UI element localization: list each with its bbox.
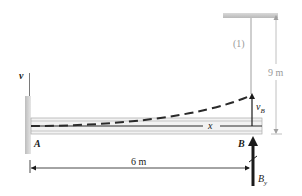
deflection-vb-label: vB xyxy=(256,101,265,115)
fixed-wall-a xyxy=(25,96,31,154)
point-a-label: A xyxy=(33,138,41,149)
beam-length-label: 6 m xyxy=(131,156,147,167)
deflection-vb-arrowhead xyxy=(249,93,255,99)
beam-dimension-arrow-right xyxy=(245,166,250,171)
beam-diagram: (1) 9 m v x vB A B By 6 m xyxy=(0,0,302,196)
member-label: (1) xyxy=(233,38,245,50)
reaction-by-label: By xyxy=(258,173,268,187)
dim-arrow-bottom xyxy=(274,129,279,134)
reaction-by-arrowhead xyxy=(248,136,258,146)
point-b-label: B xyxy=(237,138,245,149)
x-axis-label: x xyxy=(207,120,213,131)
v-axis-label: v xyxy=(19,70,24,81)
ceiling-support xyxy=(223,13,278,18)
rod-length-label: 9 m xyxy=(268,67,284,78)
beam-dimension-arrow-left xyxy=(31,166,36,171)
